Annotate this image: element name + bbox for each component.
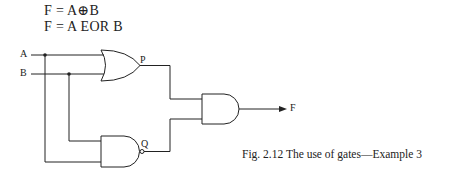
wire-a-to-nand	[45, 55, 101, 162]
wire-q-to-and	[144, 119, 202, 152]
nand-gate	[101, 136, 140, 167]
wire-p-to-and	[140, 66, 202, 100]
junction-dot-b	[67, 72, 71, 76]
or-gate	[101, 50, 140, 81]
nand-inversion-bubble	[140, 150, 144, 154]
and-gate	[202, 94, 239, 124]
figure-caption: Fig. 2.12 The use of gates—Example 3	[242, 148, 422, 160]
label-nand-output-q: Q	[141, 138, 148, 149]
wire-b-to-nand	[69, 74, 101, 141]
label-or-output-p: P	[140, 54, 146, 65]
label-output-f: F	[290, 102, 296, 113]
output-arrow-icon	[279, 106, 287, 112]
label-input-b: B	[20, 67, 27, 78]
junction-dot-a	[43, 53, 47, 57]
label-input-a: A	[20, 48, 27, 59]
